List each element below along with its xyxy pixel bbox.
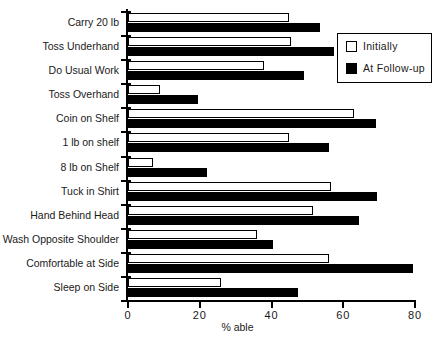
bar-group: [128, 11, 416, 35]
bar-group: [128, 204, 416, 228]
bar-at-follow-up: [128, 71, 304, 80]
legend-label-initially: Initially: [363, 41, 398, 52]
bar-at-follow-up: [128, 240, 273, 249]
y-axis-category-label: Coin on Shelf: [0, 113, 119, 124]
y-axis-category-label: Comfortable at Side: [0, 258, 119, 269]
bar-at-follow-up: [128, 143, 329, 152]
bar-chart-figure: Carry 20 lbToss UnderhandDo Usual WorkTo…: [0, 0, 433, 339]
x-axis-tick: [199, 300, 201, 308]
x-axis-tick: [271, 300, 273, 308]
y-axis-category-label: Hand Behind Head: [0, 210, 119, 221]
bar-at-follow-up: [128, 23, 320, 32]
bar-at-follow-up: [128, 47, 334, 56]
bar-group: [128, 252, 416, 276]
bar-at-follow-up: [128, 264, 413, 273]
bar-initially: [128, 182, 331, 191]
x-axis-tick-label: 80: [408, 310, 422, 321]
bar-initially: [128, 37, 291, 46]
y-axis-category-label: Tuck in Shirt: [0, 186, 119, 197]
filled-square-icon: [346, 63, 357, 74]
bar-group: [128, 156, 416, 180]
y-axis-category-label: Sleep on Side: [0, 282, 119, 293]
bar-at-follow-up: [128, 288, 298, 297]
bar-at-follow-up: [128, 95, 198, 104]
y-axis-tick: [121, 300, 131, 302]
y-axis-category-label: Do Usual Work: [0, 65, 119, 76]
bar-at-follow-up: [128, 192, 377, 201]
open-square-icon: [346, 41, 357, 52]
x-axis-tick: [127, 300, 129, 308]
y-axis-category-label: 8 lb on Shelf: [0, 162, 119, 173]
y-axis-category-label: Wash Opposite Shoulder: [0, 234, 119, 245]
bar-initially: [128, 254, 329, 263]
x-axis-tick-label: 20: [193, 310, 207, 321]
bar-initially: [128, 278, 221, 287]
y-axis-category-label: Carry 20 lb: [0, 17, 119, 28]
bar-at-follow-up: [128, 119, 376, 128]
y-axis-category-label: Toss Overhand: [0, 89, 119, 100]
legend-item-initially: Initially: [346, 41, 398, 52]
bar-initially: [128, 230, 257, 239]
bar-initially: [128, 85, 160, 94]
y-axis-category-label: Toss Underhand: [0, 41, 119, 52]
legend-box: Initially At Follow-up: [337, 33, 432, 83]
bar-group: [128, 83, 416, 107]
x-axis-tick: [342, 300, 344, 308]
bar-initially: [128, 158, 153, 167]
bar-initially: [128, 109, 354, 118]
bar-group: [128, 131, 416, 155]
x-axis-tick-label: 0: [124, 310, 131, 321]
y-axis-category-label: 1 lb on shelf: [0, 137, 119, 148]
bar-group: [128, 228, 416, 252]
bar-group: [128, 276, 416, 300]
bar-initially: [128, 206, 313, 215]
bar-group: [128, 180, 416, 204]
x-axis-tick: [414, 300, 416, 308]
bar-initially: [128, 13, 289, 22]
x-axis-tick-label: 60: [336, 310, 350, 321]
legend-item-at-follow-up: At Follow-up: [346, 63, 425, 74]
x-axis-tick-label: 40: [264, 310, 278, 321]
x-axis-title-text: % able: [179, 321, 253, 333]
bar-initially: [128, 61, 264, 70]
legend-label-at-follow-up: At Follow-up: [363, 63, 425, 74]
bar-at-follow-up: [128, 168, 207, 177]
x-axis-title: % able: [0, 322, 433, 333]
bar-initially: [128, 133, 289, 142]
bar-at-follow-up: [128, 216, 359, 225]
bar-group: [128, 107, 416, 131]
